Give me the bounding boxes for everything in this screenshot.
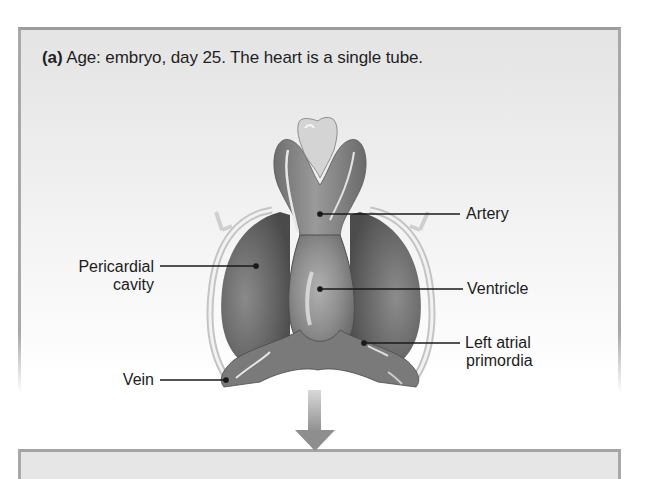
label-artery: Artery <box>466 205 509 223</box>
label-pericardial-line2: cavity <box>56 276 154 294</box>
label-left-atrial-line1: Left atrial <box>465 334 531 352</box>
label-ventricle: Ventricle <box>467 280 528 298</box>
label-left-atrial-line2: primordia <box>466 352 533 370</box>
label-vein: Vein <box>96 371 154 389</box>
arrow-down-icon <box>295 390 335 451</box>
label-pericardial-line1: Pericardial <box>56 258 154 276</box>
